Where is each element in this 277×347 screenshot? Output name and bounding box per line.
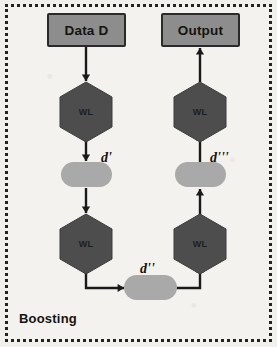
boosting-figure: Data D Output WL WL WL WL [0, 0, 277, 347]
input-box-label: Data D [65, 23, 109, 38]
output-node[interactable]: Output [162, 14, 239, 46]
boosting-diagram: Data D Output WL WL WL WL [0, 0, 277, 347]
weak-learner-label-3: WL [193, 239, 208, 249]
output-box-label: Output [178, 23, 224, 38]
dataset-node-1[interactable] [61, 162, 112, 187]
figure-caption: Boosting [19, 311, 77, 326]
weak-learner-label-2: WL [79, 239, 94, 249]
weak-learner-label-4: WL [193, 107, 208, 117]
weak-learner-node-4[interactable]: WL [174, 82, 226, 142]
dataset-node-3[interactable] [175, 162, 226, 187]
dataset-pill[interactable] [124, 275, 177, 300]
dataset-pill[interactable] [61, 162, 112, 187]
edge-label-d-triple-prime: d''' [210, 150, 229, 165]
input-node[interactable]: Data D [48, 14, 125, 46]
weak-learner-node-3[interactable]: WL [174, 214, 226, 274]
edge-label-d-prime: d' [101, 150, 112, 165]
weak-learner-label-1: WL [79, 107, 94, 117]
dataset-node-2[interactable] [124, 275, 177, 300]
edge-label-d-double-prime: d'' [140, 261, 155, 276]
dataset-pill[interactable] [175, 162, 226, 187]
weak-learner-node-2[interactable]: WL [60, 214, 112, 274]
weak-learner-node-1[interactable]: WL [60, 82, 112, 142]
